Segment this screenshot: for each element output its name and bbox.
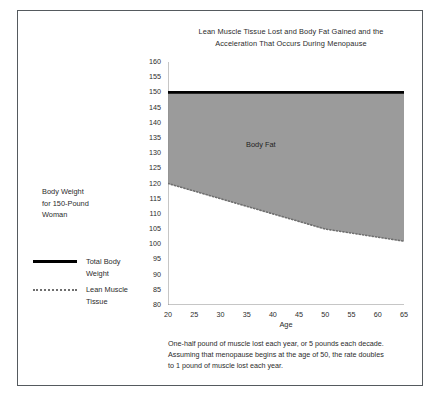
x-tick-20: 20 xyxy=(156,311,180,319)
chart-title: Lean Muscle Tissue Lost and Body Fat Gai… xyxy=(160,26,422,49)
y-tick-155: 155 xyxy=(131,73,161,81)
legend-swatch-dotted-line xyxy=(33,289,77,291)
legend-note-line-2: for 150-Pound xyxy=(42,198,138,210)
x-tick-60: 60 xyxy=(366,311,390,319)
y-tick-95: 95 xyxy=(131,255,161,263)
y-tick-100: 100 xyxy=(131,240,161,248)
legend-swatch-solid-line xyxy=(33,260,77,263)
caption-line-1: One-half pound of muscle lost each year,… xyxy=(168,338,418,349)
y-tick-120: 120 xyxy=(131,180,161,188)
x-tick-25: 25 xyxy=(182,311,206,319)
plot-area xyxy=(168,62,404,305)
x-tick-35: 35 xyxy=(235,311,259,319)
legend-label-line-1: Lean Muscle xyxy=(86,285,128,294)
x-axis-label: Age xyxy=(168,320,404,329)
chart-title-line-2: Acceleration That Occurs During Menopaus… xyxy=(160,38,422,50)
x-tick-30: 30 xyxy=(208,311,232,319)
x-tick-55: 55 xyxy=(340,311,364,319)
y-tick-110: 110 xyxy=(131,210,161,218)
x-tick-40: 40 xyxy=(261,311,285,319)
y-tick-160: 160 xyxy=(131,58,161,66)
legend-label-line-1: Total Body xyxy=(86,257,121,266)
body-fat-region-label: Body Fat xyxy=(246,140,276,149)
chart-caption: One-half pound of muscle lost each year,… xyxy=(168,338,418,372)
y-tick-135: 135 xyxy=(131,134,161,142)
y-tick-140: 140 xyxy=(131,119,161,127)
y-tick-125: 125 xyxy=(131,164,161,172)
x-tick-45: 45 xyxy=(287,311,311,319)
legend-label-line-2: Tissue xyxy=(86,297,108,306)
y-tick-85: 85 xyxy=(131,286,161,294)
chart-title-line-1: Lean Muscle Tissue Lost and Body Fat Gai… xyxy=(160,26,422,38)
y-tick-80: 80 xyxy=(131,301,161,309)
legend-label-line-2: Weight xyxy=(86,269,109,278)
legend-note-line-1: Body Weight xyxy=(42,186,138,198)
legend-note-line-3: Woman xyxy=(42,209,138,221)
y-tick-90: 90 xyxy=(131,271,161,279)
x-tick-65: 65 xyxy=(392,311,416,319)
caption-line-3: to 1 pound of muscle lost each year. xyxy=(168,360,418,371)
caption-line-2: Assuming that menopause begins at the ag… xyxy=(168,349,418,360)
y-tick-105: 105 xyxy=(131,225,161,233)
plot-svg xyxy=(168,62,404,305)
legend-note: Body Weight for 150-Pound Woman xyxy=(42,186,138,221)
x-tick-50: 50 xyxy=(313,311,337,319)
chart-figure: Lean Muscle Tissue Lost and Body Fat Gai… xyxy=(0,0,441,404)
y-tick-115: 115 xyxy=(131,195,161,203)
y-tick-145: 145 xyxy=(131,104,161,112)
y-tick-150: 150 xyxy=(131,88,161,96)
y-tick-130: 130 xyxy=(131,149,161,157)
